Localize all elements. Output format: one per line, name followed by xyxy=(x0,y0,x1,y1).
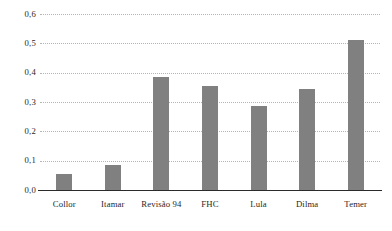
x-tick-label: Temer xyxy=(344,199,367,209)
x-tick-label: Itamar xyxy=(101,199,125,209)
bar xyxy=(105,165,121,190)
y-tick-label: 0,3 xyxy=(2,98,36,107)
y-axis: 0,00,10,20,30,40,50,6 xyxy=(0,0,36,231)
bar-group: FHC xyxy=(186,0,235,231)
bar-chart: 0,00,10,20,30,40,50,6 CollorItamarRevisã… xyxy=(0,0,392,231)
bar-group: Dilma xyxy=(283,0,332,231)
y-tick-label: 0,4 xyxy=(2,68,36,77)
x-tick-label: FHC xyxy=(201,199,218,209)
y-tick-label: 0,0 xyxy=(2,186,36,195)
bar xyxy=(56,174,72,190)
x-tick-label: Dilma xyxy=(296,199,318,209)
bar xyxy=(299,89,315,190)
x-tick-label: Lula xyxy=(250,199,267,209)
y-tick-label: 0,2 xyxy=(2,127,36,136)
bar-group: Temer xyxy=(331,0,380,231)
bar xyxy=(348,40,364,190)
x-tick-label: Collor xyxy=(53,199,76,209)
y-tick-label: 0,6 xyxy=(2,10,36,19)
bars-layer: CollorItamarRevisão 94FHCLulaDilmaTemer xyxy=(40,0,380,231)
bar xyxy=(251,106,267,190)
x-tick-label: Revisão 94 xyxy=(141,199,181,209)
bar-group: Collor xyxy=(40,0,89,231)
y-tick-label: 0,5 xyxy=(2,39,36,48)
bar xyxy=(202,86,218,190)
bar-group: Revisão 94 xyxy=(137,0,186,231)
bar xyxy=(153,77,169,190)
bar-group: Lula xyxy=(234,0,283,231)
y-tick-label: 0,1 xyxy=(2,156,36,165)
bar-group: Itamar xyxy=(89,0,138,231)
